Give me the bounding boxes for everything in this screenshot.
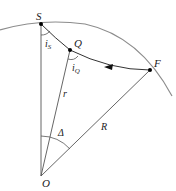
angle-arc-iQ (68, 56, 78, 59)
label-R: R (100, 121, 107, 132)
label-i-q: iQ (72, 62, 80, 75)
label-S: S (36, 10, 42, 22)
label-i-s: iS (45, 38, 52, 51)
label-Q: Q (74, 37, 82, 49)
surface-arc (0, 22, 172, 96)
label-delta: Δ (57, 127, 64, 138)
point-Q (68, 48, 72, 52)
point-F (148, 68, 152, 72)
point-S (39, 22, 43, 26)
label-r: r (63, 88, 67, 99)
line-OQ-r (41, 50, 70, 176)
label-O: O (42, 177, 50, 189)
label-F: F (153, 57, 161, 69)
angle-arc-delta (41, 136, 70, 149)
ray-geometry-diagram: S Q F O iS iQ r R Δ (0, 0, 176, 191)
line-OF-R (41, 70, 150, 176)
